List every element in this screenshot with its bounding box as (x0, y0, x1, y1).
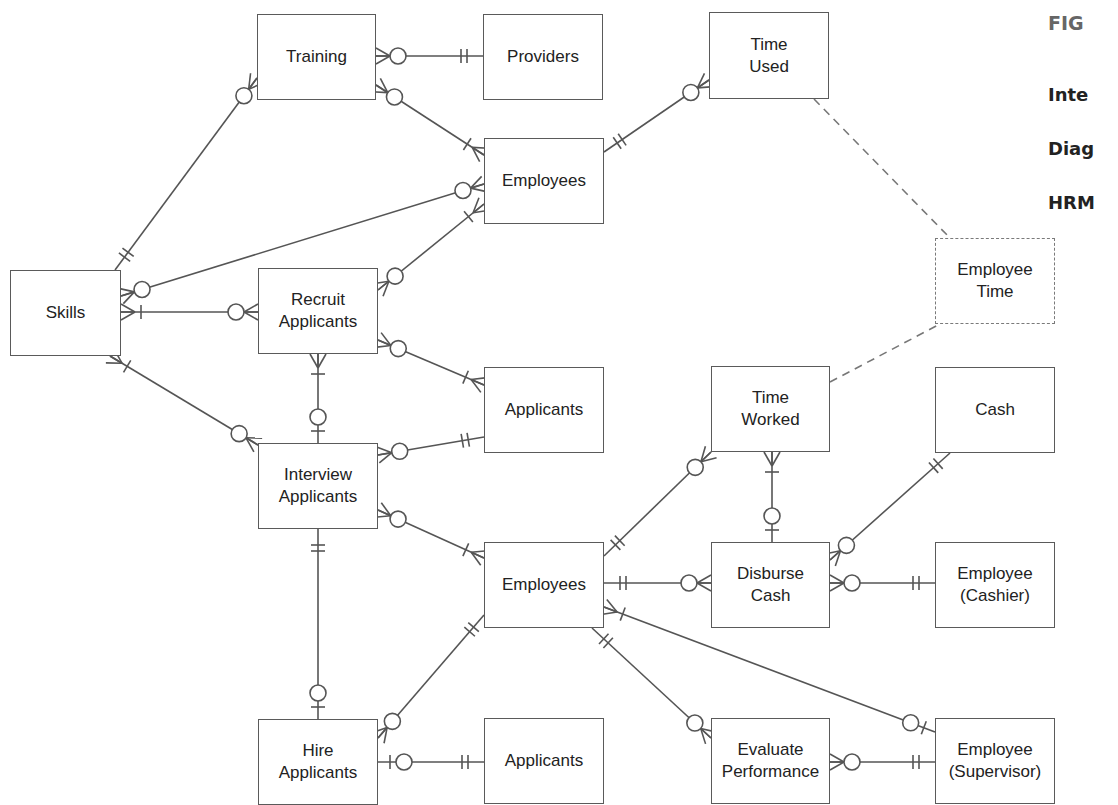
entity-employee-supervisor: Employee (Supervisor) (935, 718, 1055, 804)
caption-line: Diag (1048, 135, 1095, 162)
entity-cash: Cash (935, 367, 1055, 453)
entity-evaluate-performance: Evaluate Performance (711, 718, 830, 804)
entity-interview-applicants: Interview Applicants (258, 443, 378, 529)
entity-label: Interview Applicants (279, 464, 357, 508)
entity-hire-applicants: Hire Applicants (258, 719, 378, 805)
entity-label: Applicants (505, 750, 583, 772)
entity-label: Time Worked (741, 387, 799, 431)
entity-employee-cashier: Employee (Cashier) (935, 542, 1055, 628)
entity-applicants-bottom: Applicants (484, 718, 604, 804)
entity-disburse-cash: Disburse Cash (711, 542, 830, 628)
entity-label: Employees (502, 574, 586, 596)
entity-label: Cash (975, 399, 1015, 421)
entity-label: Recruit Applicants (279, 289, 357, 333)
entity-label: Training (286, 46, 347, 68)
entity-recruit-applicants: Recruit Applicants (258, 268, 378, 354)
entity-employees-top: Employees (484, 138, 604, 224)
entity-label: Employees (502, 170, 586, 192)
entity-label: Applicants (505, 399, 583, 421)
entity-label: Evaluate Performance (722, 739, 819, 783)
figure-caption: Inte Diag HRM (1048, 54, 1095, 243)
entity-label: Hire Applicants (279, 740, 357, 784)
entity-training: Training (257, 14, 376, 100)
entity-applicants-mid: Applicants (484, 367, 604, 453)
relationship-line (115, 78, 257, 270)
dashed-link (814, 99, 950, 238)
entity-providers: Providers (483, 14, 603, 100)
entity-employees-mid: Employees (484, 542, 604, 628)
entity-time-used: Time Used (709, 12, 829, 99)
entity-label: Employee Time (957, 259, 1033, 303)
entity-label: Time Used (749, 34, 789, 78)
dashed-link (830, 324, 940, 382)
entity-label: Employee (Supervisor) (949, 739, 1042, 783)
entity-label: Skills (46, 302, 86, 324)
entity-label: Employee (Cashier) (957, 563, 1033, 607)
entity-label: Disburse Cash (737, 563, 804, 607)
figure-label: FIG (1048, 12, 1084, 34)
entity-time-worked: Time Worked (711, 366, 830, 452)
entity-skills: Skills (10, 270, 121, 356)
caption-line: HRM (1048, 189, 1095, 216)
entity-employee-time: Employee Time (935, 238, 1055, 324)
caption-line: Inte (1048, 81, 1095, 108)
entity-label: Providers (507, 46, 579, 68)
